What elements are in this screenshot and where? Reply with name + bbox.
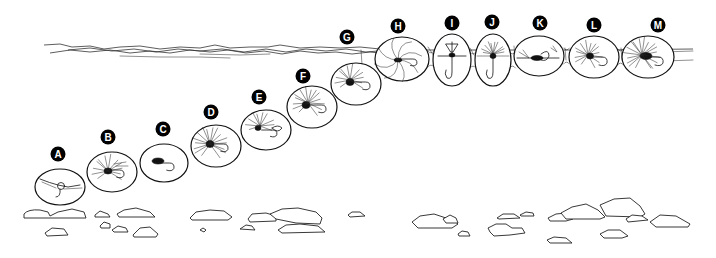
rock xyxy=(547,237,572,243)
fly-label-text: F xyxy=(300,71,306,82)
fly-depth-illustration: ABCDEFGHIJKLM xyxy=(0,0,716,258)
fly-c: C xyxy=(140,122,188,183)
rock xyxy=(348,212,365,217)
rock xyxy=(497,214,520,219)
fly-f: F xyxy=(287,69,337,129)
rock xyxy=(488,224,525,236)
rock xyxy=(100,222,110,228)
fly-label-text: M xyxy=(654,20,662,31)
rock xyxy=(24,209,86,218)
rock xyxy=(190,210,232,220)
fly-label-badge: M xyxy=(651,18,666,33)
fly-label-text: G xyxy=(343,32,351,43)
fly-b: B xyxy=(87,130,137,193)
fly-g: G xyxy=(331,30,381,106)
rock xyxy=(133,227,158,237)
fly-i: I xyxy=(433,16,471,87)
rock xyxy=(278,224,325,233)
rock xyxy=(117,208,155,217)
fly-label-text: J xyxy=(489,17,495,28)
fly-k: K xyxy=(514,16,564,77)
fly-label-badge: B xyxy=(101,130,116,145)
fly-label-badge: C xyxy=(156,122,171,137)
rock xyxy=(520,212,534,216)
rock xyxy=(600,198,645,217)
fly-m: M xyxy=(622,18,674,79)
fly-h: H xyxy=(374,19,429,82)
fly-frame-circle xyxy=(287,86,337,128)
fly-e: E xyxy=(241,90,291,151)
rock xyxy=(200,228,206,232)
fly-label-badge: A xyxy=(51,147,66,162)
fly-label-text: H xyxy=(394,21,401,32)
fly-label-text: C xyxy=(159,124,166,135)
rock xyxy=(95,211,110,217)
fly-j: J xyxy=(475,15,511,87)
fly-label-text: B xyxy=(104,132,111,143)
rock xyxy=(650,215,690,227)
fly-label-badge: H xyxy=(391,19,406,34)
fly-label-text: A xyxy=(54,149,61,160)
fly-label-badge: I xyxy=(445,16,460,31)
rock xyxy=(270,208,322,224)
fly-label-badge: K xyxy=(533,16,548,31)
illustration-canvas: ABCDEFGHIJKLM xyxy=(0,0,716,258)
fly-label-text: D xyxy=(207,107,214,118)
rock xyxy=(45,228,68,236)
fly-label-badge: L xyxy=(587,18,602,33)
rock xyxy=(600,230,628,238)
rock xyxy=(458,231,470,236)
fly-body-icon xyxy=(587,53,594,59)
rock xyxy=(112,226,128,232)
fly-frame-circle xyxy=(35,169,85,205)
fly-d: D xyxy=(191,105,241,168)
fly-sequence: ABCDEFGHIJKLM xyxy=(35,15,674,206)
rock xyxy=(561,204,605,219)
fly-body-icon xyxy=(449,53,455,57)
rock xyxy=(443,215,458,223)
fly-label-badge: E xyxy=(252,90,267,105)
fly-label-badge: J xyxy=(485,15,500,30)
fly-label-badge: G xyxy=(340,30,355,45)
fly-label-text: K xyxy=(536,18,544,29)
fly-label-text: L xyxy=(591,20,597,31)
fly-label-text: I xyxy=(451,18,454,29)
rock xyxy=(240,225,255,230)
riverbed-rocks xyxy=(24,198,690,243)
fly-a: A xyxy=(35,147,85,206)
fly-label-badge: D xyxy=(204,105,219,120)
fly-l: L xyxy=(569,18,619,79)
fly-label-badge: F xyxy=(296,69,311,84)
fly-label-text: E xyxy=(256,92,263,103)
